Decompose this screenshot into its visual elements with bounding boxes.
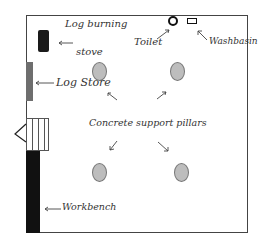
door-icon	[15, 124, 26, 142]
arrows-layer	[0, 0, 262, 247]
